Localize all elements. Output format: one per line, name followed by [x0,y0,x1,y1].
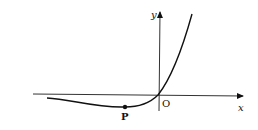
x-axis-label: x [238,102,244,113]
x-axis [33,94,243,96]
function-curve [47,14,192,107]
function-graph: y x O P [0,0,258,130]
origin-label: O [162,98,170,109]
y-axis-label: y [150,9,157,20]
point-p-label: P [121,111,129,122]
y-axis [159,12,160,111]
point-p-marker [123,105,127,109]
